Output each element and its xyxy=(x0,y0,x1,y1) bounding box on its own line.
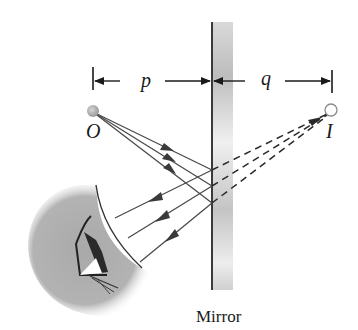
mirror-label: Mirror xyxy=(196,307,242,326)
image-point xyxy=(325,104,337,116)
flat-mirror-diagram: Mirror p q O xyxy=(0,0,358,330)
object-label: O xyxy=(86,120,100,142)
image-distance-label: q xyxy=(261,67,271,90)
mirror-shade xyxy=(213,22,233,290)
dimension-p: p xyxy=(93,67,210,92)
reflected-ray-arrowheads xyxy=(148,192,179,242)
incident-rays xyxy=(93,112,212,203)
object-distance-label: p xyxy=(139,69,151,92)
incident-ray-arrowheads xyxy=(160,143,176,174)
object-point xyxy=(87,105,99,117)
image-label: I xyxy=(325,120,334,142)
mirror xyxy=(212,22,233,290)
